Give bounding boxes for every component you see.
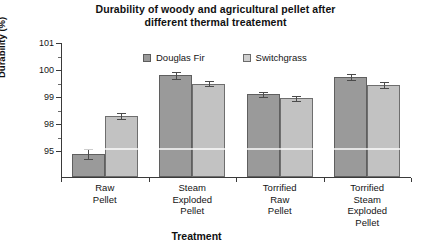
error-bar-stem [88, 149, 89, 159]
y-tick-major [56, 151, 61, 152]
x-tick [411, 178, 412, 182]
error-bar-cap [172, 79, 181, 80]
y-tick-minor [58, 57, 61, 58]
bar-switchgrass-3 [367, 85, 400, 177]
error-bar-cap [205, 81, 214, 82]
legend-item-douglas-fir: Douglas Fir [143, 52, 205, 63]
bar-douglas-fir-3 [334, 77, 367, 177]
error-bar-cap [84, 159, 93, 160]
legend-swatch-icon-douglas-fir [143, 54, 151, 62]
error-bar-cap [205, 86, 214, 87]
y-tick-minor [58, 111, 61, 112]
legend-item-switchgrass: Switchgrass [243, 52, 307, 63]
x-axis-label-line: Torrified [324, 182, 412, 194]
y-tick-major [56, 124, 61, 125]
error-bar-cap [117, 119, 126, 120]
x-axis-label-line: Exploded [149, 194, 237, 206]
error-bar-cap [172, 72, 181, 73]
y-tick-major [56, 43, 61, 44]
error-bar-cap [380, 88, 389, 89]
y-tick-label: 101 [39, 39, 54, 48]
error-bar-cap [84, 149, 93, 150]
bar-chart: Durability of woody and agricultural pel… [0, 0, 431, 244]
error-bar-cap [380, 82, 389, 83]
y-axis-title: Durability (%) [0, 17, 7, 78]
y-axis-line [61, 43, 62, 178]
y-tick-minor [58, 138, 61, 139]
error-bar-cap [347, 74, 356, 75]
chart-title: Durability of woody and agricultural pel… [0, 3, 431, 29]
bar-switchgrass-0 [105, 116, 138, 177]
x-axis-label-line: Steam [149, 182, 237, 194]
legend-swatch-icon-switchgrass [243, 54, 251, 62]
y-tick-label: 100 [39, 66, 54, 75]
x-axis-label-line: Torrified [236, 182, 324, 194]
error-bar-cap [347, 80, 356, 81]
x-axis-label-1: SteamExplodedPellet [149, 182, 237, 217]
y-tick-major [56, 70, 61, 71]
error-bar-cap [259, 92, 268, 93]
y-tick-label: 99 [44, 93, 54, 102]
bar-douglas-fir-1 [159, 75, 192, 177]
error-bar-cap [292, 96, 301, 97]
chart-title-line-2: different thermal treatement [0, 16, 431, 29]
x-axis-label-line: Pellet [149, 205, 237, 217]
x-axis-label-line: Raw [61, 182, 149, 194]
legend-label-switchgrass: Switchgrass [256, 52, 307, 63]
x-axis-label-line: Steam [324, 194, 412, 206]
error-bar-cap [117, 113, 126, 114]
bar-switchgrass-2 [280, 98, 313, 177]
x-axis-title: Treatment [0, 230, 431, 242]
legend-label-douglas-fir: Douglas Fir [156, 52, 205, 63]
legend: Douglas Fir Switchgrass [143, 52, 307, 63]
bar-douglas-fir-2 [247, 94, 280, 177]
y-tick-minor [58, 84, 61, 85]
chart-title-line-1: Durability of woody and agricultural pel… [0, 3, 431, 16]
x-axis-label-line: Pellet [236, 205, 324, 217]
x-axis-label-0: RawPellet [61, 182, 149, 205]
x-axis-label-line: Exploded [324, 205, 412, 217]
x-axis-label-line: Raw [236, 194, 324, 206]
x-axis-label-line: Pellet [61, 194, 149, 206]
error-bar-cap [259, 97, 268, 98]
bar-switchgrass-1 [192, 84, 225, 178]
x-axis-label-line: Pellet [324, 217, 412, 229]
x-axis-label-2: TorrifiedRawPellet [236, 182, 324, 217]
y-tick-major [56, 97, 61, 98]
x-axis-label-3: TorrifiedSteamExplodedPellet [324, 182, 412, 228]
y-tick-label: 95 [44, 147, 54, 156]
error-bar-cap [292, 101, 301, 102]
plot-area: 101100999895 [61, 43, 411, 178]
y-tick-label: 98 [44, 120, 54, 129]
